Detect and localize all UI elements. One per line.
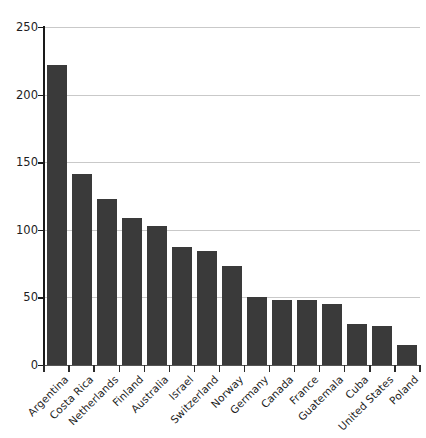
- bar: [272, 300, 292, 365]
- x-axis-tick: [369, 365, 370, 372]
- x-axis-tick-label: Costa Rica: [47, 373, 95, 421]
- y-axis-tick-label: 150: [8, 155, 38, 169]
- x-axis-tick: [294, 365, 295, 372]
- bar: [197, 251, 217, 365]
- x-axis-tick-label: Netherlands: [66, 373, 121, 428]
- bar: [147, 226, 167, 365]
- x-axis-tick-label: United States: [336, 373, 396, 433]
- bar: [47, 65, 67, 365]
- bar: [247, 297, 267, 365]
- x-axis-tick: [43, 365, 44, 372]
- y-axis-tick-label: 100: [8, 223, 38, 237]
- x-axis-tick-label: Poland: [387, 373, 421, 407]
- y-axis-tick-label: 0: [8, 358, 38, 372]
- y-axis-tick-label: 50: [8, 290, 38, 304]
- x-axis-tick: [269, 365, 270, 372]
- x-axis-tick-label: France: [287, 373, 321, 407]
- bar: [222, 266, 242, 365]
- bar-chart: 050100150200250 ArgentinaCosta RicaNethe…: [0, 0, 426, 438]
- x-axis-tick: [419, 365, 420, 372]
- x-axis-tick-label: Switzerland: [168, 373, 221, 426]
- x-axis-tick: [244, 365, 245, 372]
- y-axis-line: [43, 26, 45, 366]
- bar: [297, 300, 317, 365]
- x-axis-tick: [68, 365, 69, 372]
- bar: [97, 199, 117, 365]
- gridline: [44, 162, 420, 163]
- gridline: [44, 95, 420, 96]
- bar: [122, 218, 142, 365]
- bar: [397, 345, 417, 365]
- bar: [322, 304, 342, 365]
- bar: [347, 324, 367, 365]
- bar: [72, 174, 92, 365]
- x-axis-tick-label: Cuba: [343, 373, 371, 401]
- gridline: [44, 27, 420, 28]
- x-axis-tick: [119, 365, 120, 372]
- x-axis-tick-label: Norway: [208, 373, 245, 410]
- x-axis-tick: [344, 365, 345, 372]
- x-axis-tick: [219, 365, 220, 372]
- bar: [372, 326, 392, 365]
- x-axis-tick: [169, 365, 170, 372]
- x-axis-tick: [319, 365, 320, 372]
- x-axis-tick-label: Israel: [166, 373, 195, 402]
- bar: [172, 247, 192, 365]
- y-axis-tick-label: 250: [8, 20, 38, 34]
- x-axis-tick-label: Germany: [227, 373, 270, 416]
- y-axis-tick-label: 200: [8, 88, 38, 102]
- x-axis-tick-label: Australia: [128, 373, 170, 415]
- x-axis-tick-label: Canada: [258, 373, 295, 410]
- x-axis-tick: [194, 365, 195, 372]
- x-axis-tick-label: Finland: [110, 373, 146, 409]
- x-axis-tick-label: Guatemala: [296, 373, 346, 423]
- x-axis-tick: [394, 365, 395, 372]
- x-axis-tick-label: Argentina: [25, 373, 70, 418]
- x-axis-tick: [93, 365, 94, 372]
- x-axis-tick: [144, 365, 145, 372]
